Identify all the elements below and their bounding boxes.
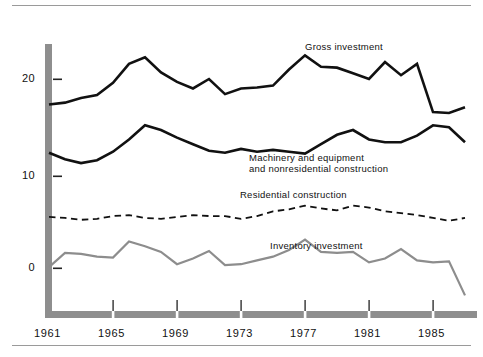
x-tick-1977 [304, 300, 305, 311]
x-axis-tick-label-1977: 1977 [290, 327, 317, 339]
x-tick-1985 [432, 300, 433, 311]
y-tick-10 [53, 176, 62, 178]
x-axis-spine [45, 311, 477, 318]
series-line-inventory-investment [49, 240, 465, 296]
y-axis-tick-label-20: 20 [9, 72, 35, 84]
x-axis-tick-label-1961: 1961 [34, 327, 61, 339]
y-tick-0 [53, 268, 62, 270]
y-tick-20 [53, 79, 62, 81]
series-label-gross-investment: Gross investment [305, 41, 383, 53]
series-label-inventory: Inventory investment [270, 240, 363, 252]
line-chart-plot [0, 0, 483, 357]
figure-canvas: 20100 1961196519691973197719811985 Gross… [0, 0, 483, 357]
x-tick-1973 [240, 300, 241, 311]
series-label-residential: Residential construction [240, 189, 347, 201]
x-axis-tick-label-1965: 1965 [98, 327, 125, 339]
y-axis-spine [45, 44, 52, 318]
x-axis-tick-label-1969: 1969 [162, 327, 189, 339]
series-line-gross-investment [49, 55, 465, 113]
x-tick-1969 [176, 300, 177, 311]
x-axis-tick-label-1985: 1985 [418, 327, 445, 339]
x-axis-tick-label-1981: 1981 [354, 327, 381, 339]
x-axis-tick-label-1973: 1973 [226, 327, 253, 339]
x-tick-1981 [368, 300, 369, 311]
y-axis-tick-label-0: 0 [9, 261, 35, 273]
x-tick-1965 [112, 300, 113, 311]
series-line-residential-construction [49, 206, 465, 221]
y-axis-tick-label-10: 10 [9, 169, 35, 181]
series-label-machinery-2: and nonresidential construction [249, 163, 388, 175]
